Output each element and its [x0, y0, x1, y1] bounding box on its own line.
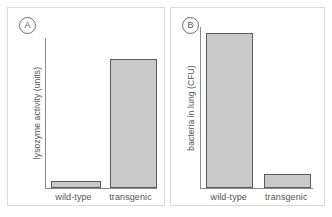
- panel-a-bar-transgenic: [110, 59, 157, 188]
- panel-b-yaxis-title-wrap: bacteria in lung (CFU): [184, 33, 198, 183]
- panel-b-yaxis-title: bacteria in lung (CFU): [184, 33, 198, 183]
- panel-b-label: B: [182, 17, 199, 34]
- panel-b-bar-transgenic: [264, 174, 311, 188]
- panel-a-label: A: [19, 17, 36, 34]
- panel-a-bar-wild-type: [51, 181, 101, 189]
- panel-b-plot-area: [200, 27, 313, 189]
- panel-a-xtick-wild-type: wild-type: [45, 192, 102, 202]
- panel-b-bars: [201, 27, 313, 188]
- panel-a-bars: [46, 38, 157, 188]
- panel-a-plot-area: [45, 38, 157, 189]
- panel-a-xaxis-labels: wild-type transgenic: [45, 192, 159, 202]
- figure-root: A lysozyme activity (units) wild-type tr…: [0, 0, 332, 217]
- panel-b-bar-wild-type: [206, 33, 253, 188]
- panel-b-xaxis-labels: wild-type transgenic: [200, 192, 315, 202]
- panel-a: A lysozyme activity (units) wild-type tr…: [7, 7, 165, 206]
- panel-b-xtick-transgenic: transgenic: [258, 192, 316, 202]
- panel-b-xtick-wild-type: wild-type: [200, 192, 258, 202]
- panel-b: B bacteria in lung (CFU) wild-type trans…: [170, 7, 325, 206]
- panel-a-yaxis-title: lysozyme activity (units): [30, 38, 44, 188]
- panel-a-yaxis-title-wrap: lysozyme activity (units): [30, 38, 44, 188]
- panel-a-xtick-transgenic: transgenic: [102, 192, 159, 202]
